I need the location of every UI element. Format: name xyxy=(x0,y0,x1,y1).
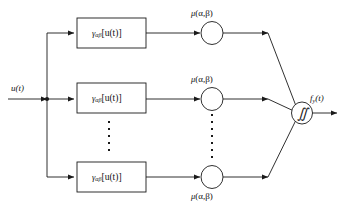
weight-args-middle: (α,β) xyxy=(195,74,213,84)
junction-dot-input xyxy=(45,97,49,101)
operator-label-middle: γαβ[u(t)] xyxy=(92,94,122,104)
block-diagram-graphic: ∬ xyxy=(0,0,345,217)
ellipsis-dot xyxy=(211,128,213,130)
weight-circle-top xyxy=(201,22,223,45)
weight-label-bottom: μ(α,β) xyxy=(191,192,213,201)
ellipsis-dot xyxy=(211,149,213,151)
ellipsis-dot xyxy=(108,149,110,151)
ellipsis-dot xyxy=(108,135,110,137)
figure-canvas: ∬ u(t) γαβ[u(t)] γαβ[u(t)] γαβ[u(t)] μ(α… xyxy=(0,0,345,217)
operator-label-top: γαβ[u(t)] xyxy=(92,29,122,39)
ellipsis-dot xyxy=(211,156,213,158)
weight-circle-bottom xyxy=(201,166,223,189)
input-label-text: u(t) xyxy=(11,83,24,93)
input-label: u(t) xyxy=(11,84,24,93)
weight-args-top: (α,β) xyxy=(195,8,213,18)
weight-label-middle: μ(α,β) xyxy=(191,75,213,84)
bottom-converge-line xyxy=(268,120,296,177)
ellipsis-dot xyxy=(108,128,110,130)
ellipsis-dot xyxy=(211,114,213,116)
ellipsis-dot xyxy=(211,135,213,137)
operator-arg-bottom: [u(t)] xyxy=(102,172,122,182)
weight-label-top: μ(α,β) xyxy=(191,9,213,18)
ellipsis-weight-column xyxy=(208,114,216,163)
output-arg: (t) xyxy=(315,93,324,103)
ellipsis-dot xyxy=(108,121,110,123)
operator-label-bottom: γαβ[u(t)] xyxy=(92,173,122,183)
top-converge-line xyxy=(268,33,296,106)
junction-dots xyxy=(45,97,49,101)
ellipsis-dot xyxy=(211,121,213,123)
weight-circle-middle xyxy=(201,88,223,111)
ellipsis-dot xyxy=(108,142,110,144)
ellipsis-dot xyxy=(211,142,213,144)
operator-arg-middle: [u(t)] xyxy=(102,93,122,103)
weight-args-bottom: (α,β) xyxy=(195,191,213,201)
ellipsis-operator-column xyxy=(105,121,113,156)
output-label: fy(t) xyxy=(310,94,324,104)
operator-arg-top: [u(t)] xyxy=(102,28,122,38)
